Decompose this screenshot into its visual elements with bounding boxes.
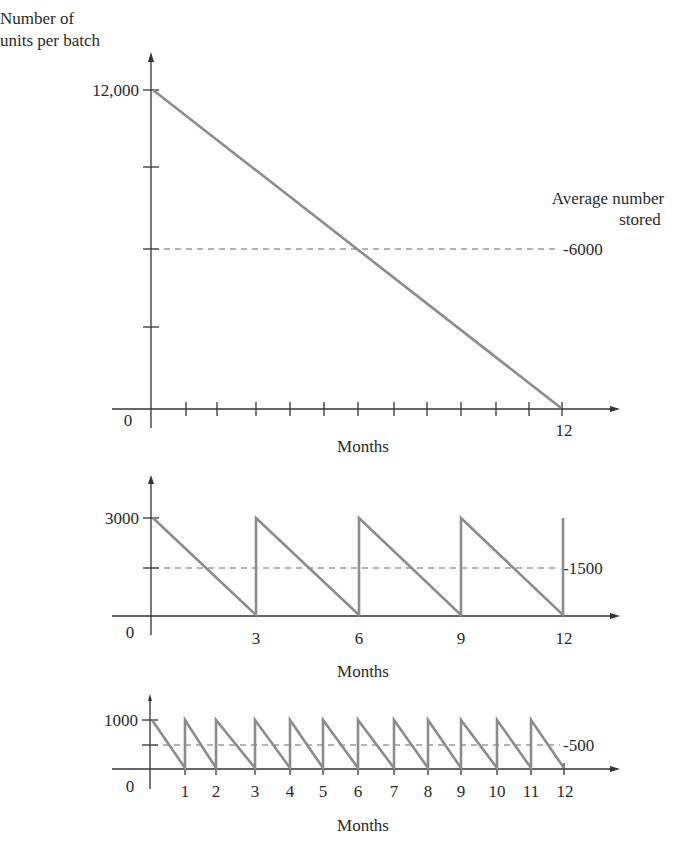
y-tick-label-12000: 12,000 (92, 81, 139, 100)
chart-annual-order: Number of units per batch 12,000 0 (0, 9, 665, 456)
origin-label: 0 (126, 623, 135, 642)
y-tick-label-1000: 1000 (104, 711, 138, 730)
average-label: -500 (563, 736, 594, 755)
x-axis-arrow-icon (610, 406, 620, 412)
inventory-charts: Number of units per batch 12,000 0 (0, 0, 683, 864)
x-tick-label: 5 (319, 782, 328, 801)
average-label: -6000 (563, 240, 603, 259)
x-tick-label: 9 (457, 629, 466, 648)
annotation-line2: stored (619, 210, 661, 229)
y-axis-arrow-icon (148, 52, 154, 62)
x-tick-label: 9 (457, 782, 466, 801)
inventory-line (153, 518, 563, 615)
x-axis-title: Months (337, 816, 389, 835)
x-tick-label: 12 (557, 782, 574, 801)
x-axis-arrow-icon (610, 613, 620, 619)
y-axis-title-line2: units per batch (0, 31, 101, 50)
annotation-line1: Average number (552, 189, 665, 208)
x-tick-label: 10 (489, 782, 506, 801)
x-tick-label: 3 (251, 782, 260, 801)
origin-label: 0 (126, 777, 135, 796)
y-axis-arrow-icon (148, 475, 154, 484)
x-tick-label: 6 (354, 782, 363, 801)
y-axis-arrow-icon (148, 694, 152, 701)
x-axis-arrow-icon (610, 766, 620, 772)
x-tick-label: 7 (390, 782, 399, 801)
x-tick-label: 11 (523, 782, 539, 801)
origin-label: 0 (124, 411, 133, 430)
x-tick-label: 1 (181, 782, 190, 801)
x-tick-label: 3 (252, 629, 261, 648)
x-tick-label: 12 (556, 629, 573, 648)
x-axis-title: Months (337, 437, 389, 456)
chart-quarterly-order: 3000 0 3 6 9 12 Months -1500 (105, 475, 620, 681)
chart-monthly-order: 1000 0 1 2 3 4 5 6 7 8 9 10 11 12 Month (104, 694, 620, 835)
x-tick-label: 8 (424, 782, 433, 801)
x-axis-title: Months (337, 662, 389, 681)
average-label: -1500 (563, 559, 603, 578)
x-tick-label-12: 12 (556, 421, 573, 440)
x-tick-label: 2 (212, 782, 221, 801)
x-tick-label: 4 (286, 782, 295, 801)
y-tick-label-3000: 3000 (105, 509, 139, 528)
x-tick-label: 6 (355, 629, 364, 648)
inventory-line (152, 720, 564, 768)
y-axis-title-line1: Number of (0, 9, 74, 28)
